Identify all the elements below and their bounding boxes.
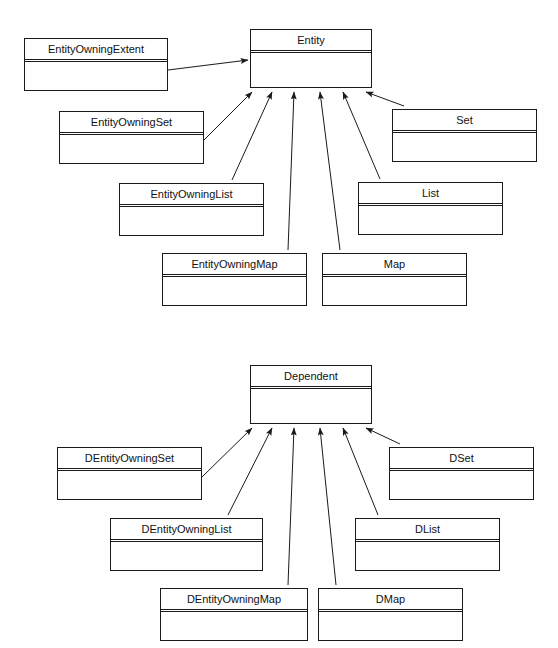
class-name-entity-owning-map: EntityOwningMap	[163, 254, 306, 275]
class-box-entity-owning-extent[interactable]: EntityOwningExtent	[24, 38, 168, 91]
class-box-set[interactable]: Set	[392, 109, 537, 162]
generalization-gen-dlist-dep	[228, 428, 272, 515]
class-box-entity-owning-map[interactable]: EntityOwningMap	[162, 253, 307, 306]
generalization-gen-set-entity	[204, 92, 252, 140]
class-name-entity: Entity	[251, 30, 371, 51]
generalization-gen-list2-entity	[343, 92, 380, 179]
class-name-list: List	[359, 183, 502, 204]
generalization-gen-dlist2-dep	[343, 428, 378, 515]
attribute-compartment-entity-owning-list	[120, 207, 263, 235]
class-box-d-entity-owning-set[interactable]: DEntityOwningSet	[57, 447, 202, 500]
generalization-gen-dset-dep	[202, 428, 252, 477]
class-name-d-map: DMap	[319, 589, 462, 610]
class-name-d-entity-owning-list: DEntityOwningList	[111, 519, 262, 540]
class-box-d-entity-owning-map[interactable]: DEntityOwningMap	[160, 588, 308, 641]
generalization-gen-map-entity	[288, 92, 294, 250]
generalization-gen-set2-entity	[366, 92, 404, 106]
generalization-gen-dmap-dep	[288, 428, 294, 585]
attribute-compartment-set	[393, 133, 536, 161]
attribute-compartment-map	[323, 277, 466, 305]
attribute-compartment-d-entity-owning-set	[58, 471, 201, 499]
attribute-compartment-entity-owning-extent	[25, 62, 167, 90]
class-box-d-set[interactable]: DSet	[389, 447, 534, 500]
uml-diagram-canvas: EntityEntityOwningExtentEntityOwningSetE…	[0, 0, 558, 648]
class-box-d-entity-owning-list[interactable]: DEntityOwningList	[110, 518, 263, 571]
class-box-entity-owning-set[interactable]: EntityOwningSet	[59, 111, 204, 164]
attribute-compartment-list	[359, 206, 502, 234]
attribute-compartment-dependent	[251, 389, 371, 423]
class-name-map: Map	[323, 254, 466, 275]
attribute-compartment-entity-owning-set	[60, 135, 203, 163]
generalization-gen-dset2-dep	[366, 428, 400, 444]
generalization-gen-dmap2-dep	[320, 428, 336, 585]
class-name-set: Set	[393, 110, 536, 131]
class-box-d-map[interactable]: DMap	[318, 588, 463, 641]
attribute-compartment-d-map	[319, 612, 462, 640]
class-box-entity[interactable]: Entity	[250, 29, 372, 88]
generalization-gen-list-entity	[232, 92, 272, 180]
class-name-entity-owning-list: EntityOwningList	[120, 184, 263, 205]
attribute-compartment-d-entity-owning-map	[161, 612, 307, 640]
attribute-compartment-entity	[251, 53, 371, 87]
attribute-compartment-d-list	[356, 542, 499, 570]
class-name-d-set: DSet	[390, 448, 533, 469]
generalization-gen-extent-entity	[168, 60, 248, 70]
class-name-entity-owning-extent: EntityOwningExtent	[25, 39, 167, 60]
class-name-d-entity-owning-set: DEntityOwningSet	[58, 448, 201, 469]
attribute-compartment-d-set	[390, 471, 533, 499]
generalization-gen-map2-entity	[320, 92, 340, 250]
class-name-entity-owning-set: EntityOwningSet	[60, 112, 203, 133]
class-name-d-entity-owning-map: DEntityOwningMap	[161, 589, 307, 610]
class-box-entity-owning-list[interactable]: EntityOwningList	[119, 183, 264, 236]
class-box-list[interactable]: List	[358, 182, 503, 235]
attribute-compartment-d-entity-owning-list	[111, 542, 262, 570]
class-box-d-list[interactable]: DList	[355, 518, 500, 571]
class-name-d-list: DList	[356, 519, 499, 540]
class-name-dependent: Dependent	[251, 366, 371, 387]
class-box-map[interactable]: Map	[322, 253, 467, 306]
class-box-dependent[interactable]: Dependent	[250, 365, 372, 424]
attribute-compartment-entity-owning-map	[163, 277, 306, 305]
